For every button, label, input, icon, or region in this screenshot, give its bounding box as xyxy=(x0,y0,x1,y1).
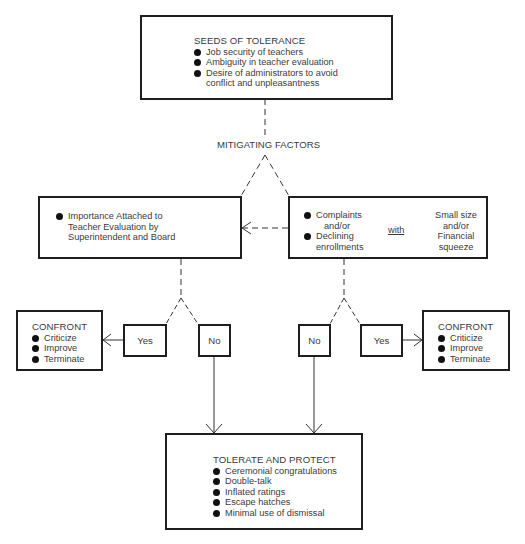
confront-title: CONFRONT xyxy=(438,322,493,333)
confront-item: Criticize xyxy=(32,333,87,344)
financial-text: Financial xyxy=(428,231,484,242)
bullet-icon xyxy=(194,49,201,56)
tolerate-protect-box: TOLERATE AND PROTECT Ceremonial congratu… xyxy=(165,433,363,530)
bullet-icon xyxy=(213,478,220,485)
seeds-item: Job security of teachers xyxy=(194,47,338,58)
mitigating-factors-label: MITIGATING FACTORS xyxy=(217,139,320,150)
bullet-icon xyxy=(438,345,445,352)
tolerate-item: Double-talk xyxy=(213,476,337,487)
bullet-icon xyxy=(194,59,201,66)
bullet-icon xyxy=(438,335,445,342)
right-yes-box: Yes xyxy=(360,324,403,357)
bullet-icon xyxy=(213,510,220,517)
bullet-icon xyxy=(213,489,220,496)
bullet-icon xyxy=(304,233,311,240)
bullet-icon xyxy=(213,468,220,475)
complaints-box: Complaints and/or Decliningenrollments w… xyxy=(288,196,488,259)
seeds-of-tolerance-box: SEEDS OF TOLERANCE Job security of teach… xyxy=(140,15,393,100)
bullet-icon xyxy=(194,70,201,77)
confront-title: CONFRONT xyxy=(32,322,87,333)
seeds-item: Ambiguity in teacher evaluation xyxy=(194,57,338,68)
confront-item: Criticize xyxy=(438,333,493,344)
bullet-icon xyxy=(213,499,220,506)
tolerate-item: Minimal use of dismissal xyxy=(213,508,337,519)
confront-item: Improve xyxy=(438,343,493,354)
seeds-item: Desire of administrators to avoidconflic… xyxy=(194,68,338,89)
tolerate-item: Escape hatches xyxy=(213,497,337,508)
tolerate-item: Inflated ratings xyxy=(213,487,337,498)
bullet-icon xyxy=(438,356,445,363)
right-no-box: No xyxy=(298,324,331,357)
andor-text: and/or xyxy=(304,221,364,232)
confront-item: Terminate xyxy=(32,354,87,365)
left-yes-box: Yes xyxy=(123,324,167,357)
complaints-item: Complaints xyxy=(304,210,364,221)
tolerate-title: TOLERATE AND PROTECT xyxy=(213,455,337,466)
bullet-icon xyxy=(56,213,63,220)
andor-text: and/or xyxy=(428,221,484,232)
with-label: with xyxy=(388,225,404,235)
bullet-icon xyxy=(304,212,311,219)
confront-right-box: CONFRONT Criticize Improve Terminate xyxy=(422,310,510,371)
left-no-box: No xyxy=(198,324,231,357)
confront-item: Terminate xyxy=(438,354,493,365)
complaints-item: Decliningenrollments xyxy=(304,231,364,252)
importance-item: Importance Attached toTeacher Evaluation… xyxy=(56,211,175,243)
importance-box: Importance Attached toTeacher Evaluation… xyxy=(38,196,242,259)
confront-item: Improve xyxy=(32,343,87,354)
squeeze-text: squeeze xyxy=(428,242,484,253)
bullet-icon xyxy=(32,356,39,363)
confront-left-box: CONFRONT Criticize Improve Terminate xyxy=(16,310,103,371)
tolerate-item: Ceremonial congratulations xyxy=(213,466,337,477)
bullet-icon xyxy=(32,335,39,342)
small-size-text: Small size xyxy=(428,210,484,221)
seeds-title: SEEDS OF TOLERANCE xyxy=(194,36,338,47)
bullet-icon xyxy=(32,345,39,352)
